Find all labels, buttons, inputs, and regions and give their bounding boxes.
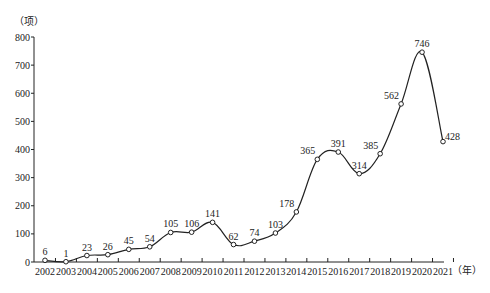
data-point-marker — [126, 247, 131, 252]
data-point-marker — [64, 259, 69, 264]
data-point-marker — [147, 245, 152, 250]
data-value-label: 6 — [43, 246, 48, 257]
data-value-label: 1 — [63, 248, 68, 259]
data-point-marker — [43, 258, 48, 263]
data-point-marker — [85, 253, 90, 258]
data-value-label: 314 — [352, 160, 367, 171]
data-point-marker — [252, 239, 257, 244]
data-value-label: 74 — [249, 227, 259, 238]
y-tick-label: 100 — [15, 228, 30, 239]
data-point-marker — [378, 151, 383, 156]
y-tick-label: 700 — [15, 60, 30, 71]
x-tick-label: 2002 — [35, 266, 55, 277]
line-chart: 0100200300400500600700800 20022003200420… — [0, 0, 490, 293]
y-tick-label: 500 — [15, 116, 30, 127]
data-markers — [43, 50, 446, 264]
data-point-marker — [315, 157, 320, 162]
data-point-marker — [106, 252, 111, 257]
x-tick-label: 2013 — [265, 266, 285, 277]
x-tick-label: 2010 — [203, 266, 223, 277]
data-point-marker — [399, 102, 404, 107]
data-line — [45, 51, 443, 262]
data-value-label: 391 — [331, 138, 346, 149]
x-tick-label: 2004 — [77, 266, 97, 277]
x-axis-unit-label: （年） — [452, 264, 482, 276]
data-value-label: 62 — [229, 231, 239, 242]
data-point-marker — [189, 230, 194, 235]
data-point-marker — [168, 230, 173, 235]
data-value-label: 746 — [415, 38, 430, 49]
data-value-label: 365 — [300, 145, 315, 156]
y-tick-label: 300 — [15, 172, 30, 183]
data-point-marker — [294, 210, 299, 215]
data-value-label: 428 — [445, 131, 460, 142]
y-tick-label: 0 — [25, 257, 30, 268]
y-tick-label: 800 — [15, 32, 30, 43]
data-value-label: 385 — [363, 140, 378, 151]
y-tick-label: 600 — [15, 88, 30, 99]
x-tick-label: 2015 — [307, 266, 327, 277]
x-tick-label: 2006 — [119, 266, 139, 277]
x-tick-label: 2011 — [224, 266, 244, 277]
data-value-label: 106 — [184, 218, 199, 229]
data-point-marker — [231, 242, 236, 247]
x-tick-label: 2005 — [98, 266, 118, 277]
data-value-label: 105 — [163, 218, 178, 229]
x-tick-label: 2020 — [412, 266, 432, 277]
data-value-label: 45 — [124, 235, 134, 246]
y-tick-label: 400 — [15, 144, 30, 155]
data-point-marker — [210, 220, 215, 225]
data-point-marker — [273, 231, 278, 236]
data-value-label: 562 — [384, 90, 399, 101]
value-labels: 6123264554105106141627410317836539131438… — [43, 38, 461, 259]
x-tick-label: 2007 — [140, 266, 160, 277]
data-point-marker — [420, 50, 425, 55]
data-value-label: 54 — [145, 233, 155, 244]
x-tick-label: 2017 — [349, 266, 369, 277]
x-tick-label: 2003 — [56, 266, 76, 277]
x-axis-ticks: 2002200320042005200620072008200920102011… — [35, 258, 453, 277]
data-value-label: 178 — [279, 198, 294, 209]
x-tick-label: 2014 — [286, 266, 306, 277]
y-axis-unit-label: （项） — [14, 16, 44, 27]
data-value-label: 103 — [268, 219, 283, 230]
data-point-marker — [336, 150, 341, 155]
x-tick-label: 2008 — [161, 266, 181, 277]
y-axis-ticks: 0100200300400500600700800 — [15, 32, 34, 268]
data-value-label: 141 — [205, 208, 220, 219]
data-value-label: 26 — [103, 241, 113, 252]
x-tick-label: 2018 — [370, 266, 390, 277]
x-tick-label: 2016 — [328, 266, 348, 277]
x-tick-label: 2012 — [244, 266, 264, 277]
x-tick-label: 2021 — [433, 266, 453, 277]
x-tick-label: 2009 — [182, 266, 202, 277]
x-tick-label: 2019 — [391, 266, 411, 277]
y-tick-label: 200 — [15, 200, 30, 211]
data-point-marker — [357, 171, 362, 176]
data-value-label: 23 — [82, 242, 92, 253]
